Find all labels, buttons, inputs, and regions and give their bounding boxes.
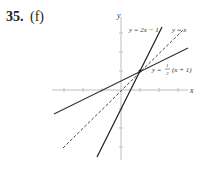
svg-text:2: 2 — [166, 71, 169, 76]
axes — [52, 17, 188, 160]
x-axis-label: x — [189, 86, 194, 95]
svg-text:(x + 1): (x + 1) — [172, 66, 192, 74]
svg-text:1: 1 — [166, 63, 169, 68]
svg-text:y =: y = — [151, 66, 162, 74]
intersection-point — [139, 70, 142, 73]
line-y-equals-x — [63, 30, 183, 148]
label-line-y-equals-x: y = x — [171, 26, 187, 34]
line-2x-minus-1 — [97, 27, 162, 157]
label-line-2x-minus-1: y = 2x − 1 — [128, 26, 159, 34]
y-axis-label: y — [116, 11, 121, 20]
graph: x y y = 2x − 1 y = x y = 1 2 (x + 1) — [0, 0, 204, 170]
label-line-half-x-plus-1: y = 1 2 (x + 1) — [151, 63, 192, 76]
